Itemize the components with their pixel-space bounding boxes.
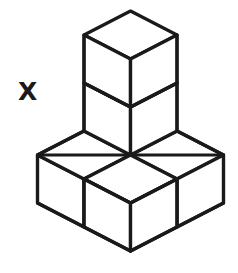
figure-label-x: X	[18, 79, 37, 104]
cube-stack-drawing	[0, 0, 238, 273]
isometric-cube-figure: X	[0, 0, 238, 273]
